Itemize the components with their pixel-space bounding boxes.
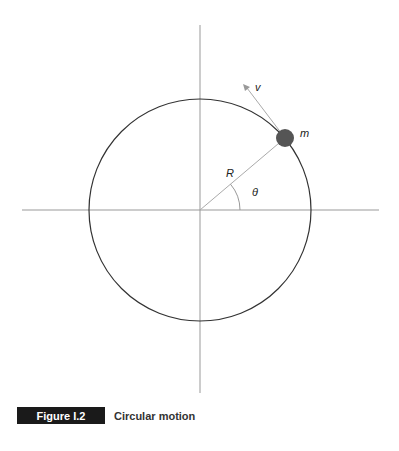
mass-point [276,129,294,147]
mass-label: m [300,127,309,139]
circular-motion-diagram: v m R θ [0,0,399,451]
figure-number: Figure I.2 [17,407,105,424]
figure-caption: Figure I.2 Circular motion [17,407,195,424]
radius-label: R [226,167,234,179]
velocity-vector [247,88,285,138]
velocity-label: v [255,81,262,93]
figure-title: Circular motion [114,410,195,422]
radius-line [200,138,285,210]
angle-label: θ [252,186,258,198]
angle-arc [231,184,241,210]
